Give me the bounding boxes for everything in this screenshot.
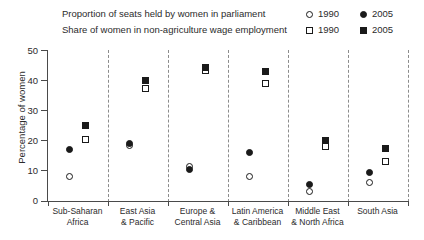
data-point-filled-square bbox=[322, 137, 329, 144]
y-tick-label: 0 bbox=[0, 196, 38, 206]
category-label: Europe &Central Asia bbox=[168, 206, 228, 227]
open-square-icon bbox=[306, 27, 313, 34]
category-label: Sub-SaharanAfrica bbox=[48, 206, 108, 227]
legend-year-parliament-2005: 2005 bbox=[372, 8, 393, 20]
data-point-filled-square bbox=[382, 145, 389, 152]
y-axis-line bbox=[47, 50, 48, 202]
y-tick-label: 40 bbox=[0, 76, 38, 86]
data-point-filled-square bbox=[202, 64, 209, 71]
y-tick-mark bbox=[41, 50, 47, 51]
x-tick-mark bbox=[408, 201, 409, 206]
category-label-line2: Central Asia bbox=[168, 217, 228, 228]
legend-label-parliament: Proportion of seats held by women in par… bbox=[62, 8, 265, 20]
data-point-open-circle bbox=[66, 173, 73, 180]
data-point-open-square bbox=[382, 158, 389, 165]
category-label-line1: Middle East bbox=[288, 206, 348, 217]
data-point-filled-circle bbox=[366, 169, 373, 176]
data-point-filled-square bbox=[142, 77, 149, 84]
filled-circle-icon bbox=[360, 11, 367, 18]
panel-divider bbox=[168, 50, 169, 202]
data-point-filled-circle bbox=[246, 149, 253, 156]
chart-figure: Proportion of seats held by women in par… bbox=[0, 0, 424, 240]
category-label-line2: Africa bbox=[48, 217, 108, 228]
panel-divider bbox=[408, 50, 409, 202]
category-label-line2: & Caribbean bbox=[228, 217, 288, 228]
category-label: South Asia bbox=[348, 206, 408, 217]
category-label-line1: Europe & bbox=[168, 206, 228, 217]
y-tick-mark bbox=[41, 201, 47, 202]
data-point-filled-circle bbox=[186, 166, 193, 173]
category-label-line2: & North Africa bbox=[288, 217, 348, 228]
y-tick-mark bbox=[41, 170, 47, 171]
data-point-filled-square bbox=[262, 68, 269, 75]
legend-row-employment: Share of women in non-agriculture wage e… bbox=[0, 24, 424, 40]
filled-square-icon bbox=[360, 27, 367, 34]
category-label-line1: South Asia bbox=[348, 206, 408, 217]
legend-row-parliament: Proportion of seats held by women in par… bbox=[0, 8, 424, 24]
y-tick-label: 20 bbox=[0, 136, 38, 146]
category-label-line1: Latin America bbox=[228, 206, 288, 217]
data-point-open-square bbox=[322, 143, 329, 150]
y-tick-mark bbox=[41, 110, 47, 111]
category-label-line1: East Asia bbox=[108, 206, 168, 217]
panel-divider bbox=[228, 50, 229, 202]
category-label: East Asia& Pacific bbox=[108, 206, 168, 227]
data-point-filled-circle bbox=[306, 181, 313, 188]
data-point-open-square bbox=[82, 136, 89, 143]
panel-divider bbox=[288, 50, 289, 202]
y-tick-label: 50 bbox=[0, 46, 38, 56]
legend-year-employment-1990: 1990 bbox=[318, 24, 339, 36]
panel-divider bbox=[348, 50, 349, 202]
panel-divider bbox=[108, 50, 109, 202]
data-point-filled-circle bbox=[66, 146, 73, 153]
y-tick-label: 10 bbox=[0, 166, 38, 176]
data-point-open-circle bbox=[366, 179, 373, 186]
data-point-open-square bbox=[142, 85, 149, 92]
data-point-open-square bbox=[262, 80, 269, 87]
data-point-open-circle bbox=[246, 173, 253, 180]
legend-year-employment-2005: 2005 bbox=[372, 24, 393, 36]
category-label-line2: & Pacific bbox=[108, 217, 168, 228]
category-label: Latin America& Caribbean bbox=[228, 206, 288, 227]
y-tick-mark bbox=[41, 140, 47, 141]
y-tick-mark bbox=[41, 80, 47, 81]
legend-label-employment: Share of women in non-agriculture wage e… bbox=[62, 24, 287, 36]
open-circle-icon bbox=[306, 11, 313, 18]
chart-legend: Proportion of seats held by women in par… bbox=[0, 0, 424, 42]
data-point-open-circle bbox=[306, 188, 313, 195]
category-label-line1: Sub-Saharan bbox=[48, 206, 108, 217]
category-label: Middle East& North Africa bbox=[288, 206, 348, 227]
data-point-filled-square bbox=[82, 122, 89, 129]
legend-year-parliament-1990: 1990 bbox=[318, 8, 339, 20]
y-tick-label: 30 bbox=[0, 106, 38, 116]
